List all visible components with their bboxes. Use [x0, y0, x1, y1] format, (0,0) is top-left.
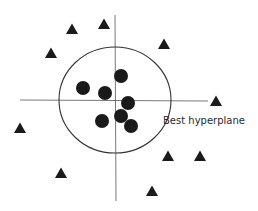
triangle-point — [98, 19, 110, 30]
triangle-point — [210, 96, 222, 107]
triangle-point — [55, 168, 67, 179]
triangle-point — [146, 186, 158, 197]
triangle-class-points — [14, 19, 222, 197]
horizontal-axis — [20, 100, 208, 101]
triangle-point — [194, 151, 206, 162]
triangle-point — [45, 48, 57, 59]
circle-point — [76, 81, 90, 95]
vertical-axis — [115, 15, 116, 201]
circle-point — [121, 96, 135, 110]
axes — [20, 15, 208, 201]
hyperplane-diagram — [0, 0, 258, 211]
triangle-point — [66, 24, 78, 35]
circle-class-points — [76, 69, 138, 133]
triangle-point — [162, 151, 174, 162]
hyperplane-label: Best hyperplane — [163, 115, 245, 126]
circle-point — [124, 119, 138, 133]
circle-point — [114, 69, 128, 83]
circle-point — [98, 86, 112, 100]
circle-point — [114, 109, 128, 123]
circle-point — [95, 114, 109, 128]
triangle-point — [158, 39, 170, 50]
triangle-point — [14, 123, 26, 134]
